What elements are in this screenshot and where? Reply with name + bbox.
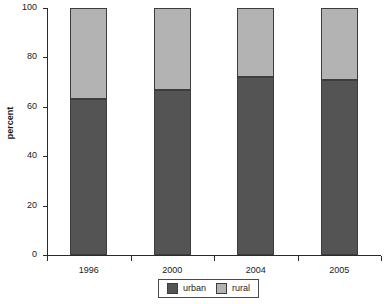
x-tick-label: 2004 — [226, 265, 286, 275]
x-tick-label: 2005 — [309, 265, 369, 275]
y-tick-label: 80 — [13, 51, 37, 61]
legend-item-rural: rural — [216, 283, 250, 294]
bar-segment-urban — [70, 99, 107, 255]
x-tick-label: 1996 — [59, 265, 119, 275]
y-tick-label: 0 — [13, 249, 37, 259]
bar-segment-rural — [154, 8, 191, 90]
y-axis-line — [47, 8, 48, 256]
x-tick-mark — [214, 256, 215, 261]
legend-label: rural — [232, 284, 250, 293]
bar-group — [321, 8, 358, 255]
x-tick-mark — [47, 256, 48, 261]
y-tick-label: 20 — [13, 200, 37, 210]
y-tick-label: 40 — [13, 150, 37, 160]
y-tick-label: 100 — [13, 2, 37, 12]
bar-group — [237, 8, 274, 255]
bar-group — [70, 8, 107, 255]
bar-segment-urban — [321, 80, 358, 255]
y-tick-mark — [43, 107, 47, 108]
stacked-bar-chart: percent 020406080100 1996200020042005 ur… — [0, 0, 388, 304]
y-tick-mark — [43, 206, 47, 207]
chart-legend: urbanrural — [158, 279, 259, 298]
legend-item-urban: urban — [167, 283, 206, 294]
y-tick-mark — [43, 8, 47, 9]
bar-segment-urban — [237, 77, 274, 255]
y-tick-mark — [43, 57, 47, 58]
x-tick-mark — [131, 256, 132, 261]
bar-segment-rural — [70, 8, 107, 99]
x-tick-label: 2000 — [142, 265, 202, 275]
x-tick-mark — [381, 256, 382, 261]
bar-group — [154, 8, 191, 255]
legend-label: urban — [183, 284, 206, 293]
legend-swatch-rural — [216, 283, 227, 294]
y-tick-mark — [43, 156, 47, 157]
y-tick-label: 60 — [13, 101, 37, 111]
bar-segment-rural — [237, 8, 274, 77]
x-tick-mark — [298, 256, 299, 261]
bar-segment-rural — [321, 8, 358, 80]
bar-segment-urban — [154, 90, 191, 255]
legend-swatch-urban — [167, 283, 178, 294]
